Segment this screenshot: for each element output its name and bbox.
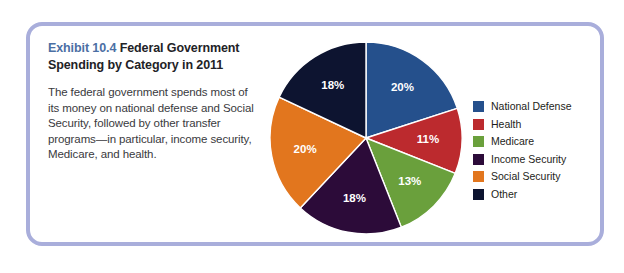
exhibit-description: The federal government spends most of it… bbox=[48, 85, 260, 163]
text-column: Exhibit 10.4 Federal Government Spending… bbox=[48, 40, 260, 163]
legend-swatch-icon bbox=[473, 136, 484, 147]
legend-item: Social Security bbox=[473, 168, 603, 186]
exhibit-frame: Exhibit 10.4 Federal Government Spending… bbox=[26, 22, 604, 246]
legend-swatch-icon bbox=[473, 171, 484, 182]
legend-item: Other bbox=[473, 186, 603, 204]
legend-swatch-icon bbox=[473, 189, 484, 200]
pie-slice-label: 20% bbox=[391, 81, 414, 93]
legend-item-label: Other bbox=[491, 189, 517, 200]
pie-slice-label: 11% bbox=[417, 133, 439, 145]
page-title: Exhibit 10.4 Federal Government Spending… bbox=[48, 40, 260, 73]
legend-item: National Defense bbox=[473, 98, 603, 116]
pie-chart: 20%11%13%18%20%18% bbox=[266, 30, 466, 246]
legend-item: Income Security bbox=[473, 151, 603, 169]
legend-item-label: Social Security bbox=[491, 171, 560, 182]
exhibit-number: Exhibit 10.4 bbox=[48, 41, 120, 55]
legend-swatch-icon bbox=[473, 154, 484, 165]
legend-swatch-icon bbox=[473, 119, 484, 130]
legend-item: Health bbox=[473, 116, 603, 134]
legend-item: Medicare bbox=[473, 133, 603, 151]
legend-item-label: Income Security bbox=[491, 154, 566, 165]
legend-item-label: National Defense bbox=[491, 101, 572, 112]
pie-slice-label: 13% bbox=[398, 175, 421, 187]
pie-slice-label: 20% bbox=[294, 143, 317, 155]
pie-slice-label: 18% bbox=[321, 79, 344, 91]
legend-item-label: Health bbox=[491, 119, 521, 130]
pie-chart-svg: 20%11%13%18%20%18% bbox=[266, 30, 466, 246]
legend-swatch-icon bbox=[473, 101, 484, 112]
pie-slice-label: 18% bbox=[343, 192, 366, 204]
legend-item-label: Medicare bbox=[491, 136, 534, 147]
chart-legend: National DefenseHealthMedicareIncome Sec… bbox=[473, 98, 603, 203]
